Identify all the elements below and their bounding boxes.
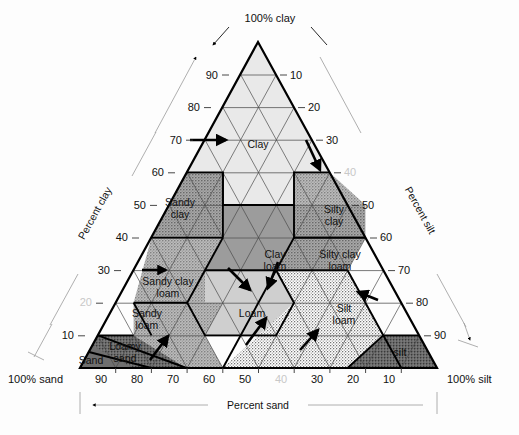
label-silt: silt <box>394 346 407 358</box>
apex-leader-left <box>213 27 229 45</box>
label-sandy-clay-loam-1: Sandy clay <box>142 275 194 287</box>
tick-sand-20: 20 <box>347 373 359 385</box>
corner-label-100-silt: 100% silt <box>447 373 492 385</box>
triangle-diagram: 90 80 70 60 50 40 30 20 10 10 20 30 40 <box>0 0 519 435</box>
tick-labels-sand: 90 80 70 60 50 40 30 20 10 <box>95 368 401 385</box>
tick-clay-90: 90 <box>206 69 218 81</box>
corner-label-100-sand: 100% sand <box>8 373 63 385</box>
label-sand: Sand <box>79 354 104 366</box>
tick-silt-70: 70 <box>398 264 410 276</box>
label-sandy-clay-loam-2: loam <box>157 287 180 299</box>
label-loam: Loam <box>239 307 266 319</box>
soil-texture-triangle-figure: 90 80 70 60 50 40 30 20 10 10 20 30 40 <box>0 0 519 435</box>
tick-silt-30: 30 <box>326 134 338 146</box>
label-silty-clay-loam-2: loam <box>329 260 352 272</box>
label-silt-loam-1: Silt <box>337 302 352 314</box>
tick-silt-20: 20 <box>308 101 320 113</box>
tick-clay-30: 30 <box>98 264 110 276</box>
tick-clay-60: 60 <box>152 166 164 178</box>
label-sandy-clay-1: Sandy <box>165 196 196 208</box>
label-silt-loam-2: loam <box>333 314 356 326</box>
tick-clay-40: 40 <box>116 231 128 243</box>
tick-sand-30: 30 <box>311 373 323 385</box>
label-silty-clay-2: clay <box>325 215 344 227</box>
label-clay-loam-2: loam <box>264 260 287 272</box>
tick-sand-40: 40 <box>275 373 287 385</box>
tick-sand-80: 80 <box>131 373 143 385</box>
tick-clay-80: 80 <box>188 101 200 113</box>
tick-clay-10: 10 <box>62 329 74 341</box>
tick-clay-20: 20 <box>80 296 92 308</box>
tick-sand-60: 60 <box>203 373 215 385</box>
label-loamy-sand-2: sand <box>114 352 137 364</box>
tick-sand-90: 90 <box>95 373 107 385</box>
label-silty-clay-loam-1: Silty clay <box>319 248 361 260</box>
label-silty-clay-1: Silty <box>324 203 345 215</box>
tick-silt-50: 50 <box>362 199 374 211</box>
tick-sand-10: 10 <box>383 373 395 385</box>
apex-label-100-clay: 100% clay <box>245 12 296 24</box>
label-clay-loam-1: Clay <box>264 248 286 260</box>
tick-silt-60: 60 <box>380 231 392 243</box>
axis-title-percent-silt: Percent silt <box>403 184 439 235</box>
label-clay: Clay <box>247 138 269 150</box>
tick-silt-40: 40 <box>344 166 356 178</box>
apex-leader-right <box>311 27 327 45</box>
tick-sand-70: 70 <box>167 373 179 385</box>
tick-silt-90: 90 <box>434 329 446 341</box>
axis-title-percent-sand: Percent sand <box>227 399 289 411</box>
tick-clay-50: 50 <box>134 199 146 211</box>
label-sandy-loam-1: Sandy <box>132 307 163 319</box>
tick-silt-80: 80 <box>416 296 428 308</box>
axis-title-percent-sand-group: Percent sand <box>80 392 437 414</box>
tick-sand-50: 50 <box>239 373 251 385</box>
label-sandy-clay-2: clay <box>171 208 190 220</box>
label-sandy-loam-2: loam <box>136 319 159 331</box>
label-loamy-sand-1: Loamy <box>109 340 141 352</box>
axis-title-percent-clay: Percent clay <box>75 184 114 241</box>
tick-clay-70: 70 <box>170 134 182 146</box>
tick-silt-10: 10 <box>290 69 302 81</box>
